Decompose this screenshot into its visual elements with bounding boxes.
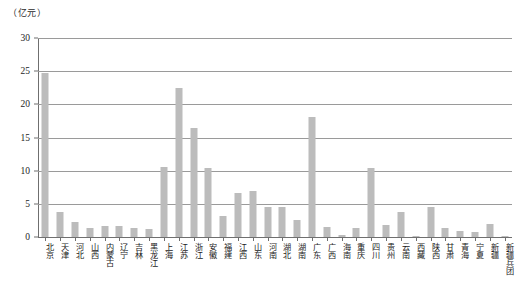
bar: [323, 227, 330, 237]
bar-slot: [201, 38, 215, 237]
bar: [442, 228, 449, 237]
x-axis-tick-mark: [149, 237, 150, 241]
x-axis-tick-label: 广西: [320, 243, 334, 259]
bar-slot: [409, 38, 423, 237]
bar: [160, 167, 167, 237]
x-axis-tick-label: 海南: [335, 243, 349, 259]
x-axis-tick-mark: [119, 237, 120, 241]
y-axis-tick-label: 25: [21, 66, 31, 76]
y-axis-tick-label: 0: [25, 232, 30, 242]
bar: [353, 228, 360, 237]
x-axis-tick-mark: [253, 237, 254, 241]
x-axis-tick-mark: [490, 237, 491, 241]
bar-slot: [364, 38, 378, 237]
x-axis-tick-label: 福建: [216, 243, 230, 259]
bar: [146, 229, 153, 237]
bar: [42, 73, 49, 237]
x-axis-tick-label: 新疆: [483, 243, 497, 259]
bar: [397, 212, 404, 237]
bar: [249, 191, 256, 237]
bar-slot: [68, 38, 82, 237]
x-axis-tick-label: 四川: [364, 243, 378, 259]
x-axis-tick-mark: [208, 237, 209, 241]
bar-slot: [157, 38, 171, 237]
x-axis-tick-mark: [401, 237, 402, 241]
x-axis-tick-label: 广东: [305, 243, 319, 259]
bar: [131, 228, 138, 237]
x-axis-tick-label: 天津: [53, 243, 67, 259]
bar-slot: [379, 38, 393, 237]
bar-slot: [290, 38, 304, 237]
bar-slot: [498, 38, 512, 237]
x-axis-tick-label: 湖北: [275, 243, 289, 259]
bar: [234, 193, 241, 237]
y-axis-tick-label: 15: [21, 133, 31, 143]
bar-slot: [275, 38, 289, 237]
bar-series: [38, 38, 512, 237]
x-axis-tick-mark: [356, 237, 357, 241]
x-axis-tick-label: 新疆兵团: [498, 243, 512, 275]
x-axis-tick-label: 河南: [261, 243, 275, 259]
bar-slot: [468, 38, 482, 237]
x-axis-tick-label: 内蒙古: [98, 243, 112, 267]
x-axis-tick-mark: [105, 237, 106, 241]
x-axis-tick-mark: [431, 237, 432, 241]
bar-slot: [453, 38, 467, 237]
x-axis-tick-mark: [134, 237, 135, 241]
bar: [57, 212, 64, 237]
bar: [175, 88, 182, 237]
x-axis-tick-label: 上海: [157, 243, 171, 259]
x-axis-tick-mark: [179, 237, 180, 241]
bar-slot: [246, 38, 260, 237]
x-axis-tick-label: 黑龙江: [142, 243, 156, 267]
bar-slot: [438, 38, 452, 237]
bar: [116, 226, 123, 237]
x-axis-tick-mark: [90, 237, 91, 241]
bar: [190, 128, 197, 237]
x-axis-tick-mark: [386, 237, 387, 241]
x-axis-tick-label: 云南: [394, 243, 408, 259]
x-axis-tick-label: 浙江: [187, 243, 201, 259]
x-axis-tick-mark: [475, 237, 476, 241]
bar-slot: [261, 38, 275, 237]
x-axis-ticks: [38, 237, 512, 242]
bar: [86, 228, 93, 237]
plot-area: [38, 38, 512, 237]
bar: [205, 168, 212, 237]
bar-slot: [112, 38, 126, 237]
y-axis-tick-label: 5: [25, 199, 30, 209]
bar: [101, 226, 108, 237]
x-axis-tick-label: 江苏: [172, 243, 186, 259]
bar-slot: [335, 38, 349, 237]
bar: [427, 207, 434, 237]
x-axis-tick-label: 西藏: [409, 243, 423, 259]
y-axis-tick-label: 20: [21, 99, 31, 109]
bar-slot: [127, 38, 141, 237]
bar-slot: [349, 38, 363, 237]
y-axis-tick-label: 10: [21, 166, 31, 176]
x-axis-tick-label: 山东: [246, 243, 260, 259]
x-axis-tick-mark: [416, 237, 417, 241]
x-axis-tick-label: 河北: [68, 243, 82, 259]
x-axis-tick-mark: [268, 237, 269, 241]
bar: [368, 168, 375, 237]
x-axis-tick-label: 辽宁: [112, 243, 126, 259]
x-axis-tick-mark: [282, 237, 283, 241]
x-axis-tick-label: 安徽: [201, 243, 215, 259]
x-axis-tick-mark: [45, 237, 46, 241]
x-axis-tick-label: 湖南: [290, 243, 304, 259]
bar-slot: [98, 38, 112, 237]
bar-slot: [424, 38, 438, 237]
x-axis-tick-mark: [312, 237, 313, 241]
bar: [294, 220, 301, 237]
x-axis-tick-mark: [327, 237, 328, 241]
bar: [309, 117, 316, 237]
x-axis-tick-mark: [505, 237, 506, 241]
bar-slot: [320, 38, 334, 237]
bar-slot: [483, 38, 497, 237]
bar: [486, 224, 493, 237]
bar-slot: [231, 38, 245, 237]
bar: [220, 216, 227, 237]
bar-slot: [142, 38, 156, 237]
bar: [383, 225, 390, 237]
